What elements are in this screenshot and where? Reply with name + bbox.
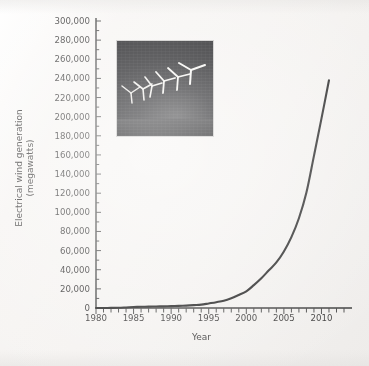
- y-tick-label: 80,000: [60, 226, 90, 236]
- x-tick-label: 2010: [311, 313, 333, 323]
- y-tick-label: 140,000: [54, 169, 90, 179]
- y-axis-tick-labels: 020,00040,00060,00080,000100,000120,0001…: [34, 0, 90, 366]
- x-tick-label: 1990: [160, 313, 182, 323]
- wind-turbine-photo: [117, 41, 213, 136]
- x-axis-title-wrap: Year: [0, 332, 369, 342]
- y-tick-label: 0: [85, 303, 90, 313]
- x-tick-label: 2000: [235, 313, 257, 323]
- x-tick-label: 2005: [273, 313, 295, 323]
- y-tick-label: 20,000: [60, 284, 90, 294]
- x-tick-label: 1995: [198, 313, 220, 323]
- photo-grain: [117, 41, 213, 136]
- y-tick-label: 180,000: [54, 131, 90, 141]
- y-tick-label: 40,000: [60, 265, 90, 275]
- y-tick-label: 60,000: [60, 246, 90, 256]
- y-axis-title: Electrical wind generation (megawatts): [14, 78, 36, 258]
- chart-figure: Electrical wind generation (megawatts) 0…: [0, 0, 369, 366]
- y-tick-label: 300,000: [54, 16, 90, 26]
- y-tick-label: 120,000: [54, 188, 90, 198]
- y-tick-label: 100,000: [54, 207, 90, 217]
- y-tick-label: 200,000: [54, 112, 90, 122]
- y-tick-label: 280,000: [54, 35, 90, 45]
- x-axis-title: Year: [192, 332, 211, 342]
- y-tick-label: 220,000: [54, 93, 90, 103]
- y-axis-title-line1: Electrical wind generation: [14, 109, 25, 226]
- y-tick-label: 240,000: [54, 73, 90, 83]
- x-tick-label: 1985: [123, 313, 145, 323]
- x-tick-label: 1980: [85, 313, 107, 323]
- y-tick-label: 260,000: [54, 54, 90, 64]
- y-tick-label: 160,000: [54, 150, 90, 160]
